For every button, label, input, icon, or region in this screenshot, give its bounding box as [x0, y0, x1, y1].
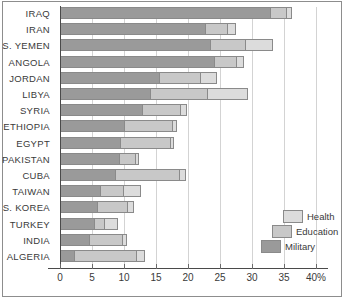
- category-label: S. KOREA: [0, 202, 50, 213]
- legend-item-military: Military: [261, 239, 315, 253]
- x-tick-label: 10: [118, 272, 129, 283]
- x-tick-label: 20: [182, 272, 193, 283]
- bar-segment-military: [60, 120, 125, 132]
- bar-segment-military: [60, 56, 215, 68]
- bar-segment-health: [173, 120, 177, 132]
- bar-segment-education: [271, 7, 286, 19]
- bar-segment-military: [60, 201, 98, 213]
- bar-segment-military: [60, 234, 90, 246]
- x-tick-mark: [156, 264, 157, 269]
- bar-row: [60, 39, 273, 51]
- x-tick-mark: [188, 264, 189, 269]
- bar-row: [60, 185, 141, 197]
- bar-segment-health: [105, 218, 118, 230]
- bar-row: [60, 250, 145, 262]
- bar-segment-health: [171, 137, 174, 149]
- x-tick-mark: [316, 264, 317, 269]
- bar-segment-military: [60, 137, 121, 149]
- bar-segment-health: [287, 7, 293, 19]
- bar-segment-education: [121, 137, 171, 149]
- bar-segment-military: [60, 72, 160, 84]
- category-label: ALGERIA: [0, 251, 50, 262]
- bar-segment-education: [75, 250, 138, 262]
- bar-row: [60, 88, 248, 100]
- category-label: INDIA: [0, 235, 50, 246]
- bar-segment-education: [101, 185, 124, 197]
- x-tick-label: 25: [214, 272, 225, 283]
- bar-segment-health: [181, 104, 187, 116]
- bar-row: [60, 201, 134, 213]
- bar-segment-military: [60, 104, 143, 116]
- legend-item-education: Education: [272, 224, 338, 238]
- bar-segment-education: [215, 56, 237, 68]
- bar-segment-military: [60, 153, 120, 165]
- bar-segment-health: [137, 250, 145, 262]
- bar-segment-military: [60, 185, 101, 197]
- bar-segment-health: [128, 201, 134, 213]
- category-label: ETHIOPIA: [0, 121, 50, 132]
- bar-segment-military: [60, 7, 271, 19]
- bar-row: [60, 137, 174, 149]
- bar-segment-health: [208, 88, 248, 100]
- bar-segment-education: [143, 104, 181, 116]
- bar-segment-health: [201, 72, 218, 84]
- category-label: LIBYA: [0, 89, 50, 100]
- bar-row: [60, 169, 186, 181]
- bar-segment-education: [95, 218, 105, 230]
- x-tick-mark: [60, 264, 61, 269]
- bar-segment-health: [228, 23, 236, 35]
- legend-swatch-military: [261, 240, 281, 253]
- y-axis-line: [60, 6, 61, 268]
- x-tick-label: 15: [150, 272, 161, 283]
- bar-segment-health: [237, 56, 243, 68]
- bar-segment-military: [60, 88, 151, 100]
- chart-frame: IRAQIRANS. YEMENANGOLAJORDANLIBYASYRIAET…: [2, 1, 342, 297]
- x-tick-label: 0: [57, 272, 63, 283]
- x-tick-label: 40%: [306, 272, 326, 283]
- category-label: EGYPT: [0, 138, 50, 149]
- bar-row: [60, 72, 217, 84]
- category-label: TURKEY: [0, 219, 50, 230]
- bar-row: [60, 153, 139, 165]
- category-label: JORDAN: [0, 73, 50, 84]
- x-tick-label: 30: [246, 272, 257, 283]
- bar-segment-military: [60, 39, 211, 51]
- bar-segment-education: [116, 169, 180, 181]
- bar-row: [60, 218, 118, 230]
- bar-segment-health: [180, 169, 186, 181]
- category-label: PAKISTAN: [0, 154, 50, 165]
- category-label: IRAN: [0, 24, 50, 35]
- category-label: S. YEMEN: [0, 40, 50, 51]
- bar-segment-education: [151, 88, 209, 100]
- bar-segment-education: [98, 201, 128, 213]
- x-tick-mark: [252, 264, 253, 269]
- legend-label: Education: [296, 226, 338, 237]
- category-label: ANGOLA: [0, 57, 50, 68]
- legend-label: Health: [307, 211, 334, 222]
- legend-swatch-education: [272, 225, 292, 238]
- bar-segment-education: [160, 72, 201, 84]
- bar-row: [60, 7, 292, 19]
- x-tick-mark: [284, 264, 285, 269]
- bar-segment-health: [246, 39, 273, 51]
- bar-segment-education: [206, 23, 228, 35]
- bar-row: [60, 120, 177, 132]
- bar-row: [60, 234, 127, 246]
- bar-row: [60, 23, 236, 35]
- bar-segment-education: [125, 120, 172, 132]
- legend-label: Military: [285, 241, 315, 252]
- bar-row: [60, 56, 244, 68]
- x-tick-mark: [124, 264, 125, 269]
- bar-segment-military: [60, 169, 116, 181]
- bar-segment-education: [90, 234, 123, 246]
- legend-item-health: Health: [283, 209, 334, 223]
- category-label: SYRIA: [0, 105, 50, 116]
- bar-segment-military: [60, 250, 75, 262]
- category-label: TAIWAN: [0, 186, 50, 197]
- x-tick-label: 5: [89, 272, 95, 283]
- bar-segment-health: [124, 185, 141, 197]
- bar-segment-military: [60, 23, 206, 35]
- category-label: CUBA: [0, 170, 50, 181]
- x-tick-mark: [92, 264, 93, 269]
- x-tick-label: 35: [278, 272, 289, 283]
